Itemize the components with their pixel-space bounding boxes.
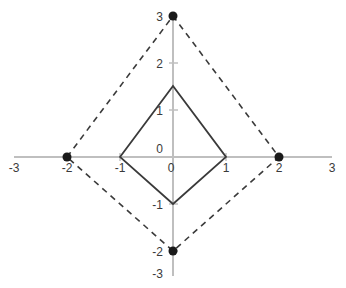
x-axis-tick-labels: -3 -2 -1 0 1 2 3 (9, 161, 336, 175)
x-label-neg1: -1 (115, 161, 126, 175)
plot-canvas: -3 -2 -1 0 1 2 3 3 2 1 0 -1 -2 -3 (0, 0, 346, 288)
y-label-neg2: -2 (152, 245, 163, 259)
x-label-pos2: 2 (276, 161, 283, 175)
x-label-pos1: 1 (223, 161, 230, 175)
y-label-pos1: 1 (156, 104, 163, 118)
y-label-neg1: -1 (152, 198, 163, 212)
y-label-pos3: 3 (156, 10, 163, 24)
coordinate-plane-figure: -3 -2 -1 0 1 2 3 3 2 1 0 -1 -2 -3 (0, 0, 346, 288)
x-label-neg3: -3 (9, 161, 20, 175)
vertex-dot-top (169, 12, 178, 21)
x-label-neg2: -2 (62, 161, 73, 175)
y-label-zero: 0 (156, 142, 163, 156)
y-label-pos2: 2 (156, 57, 163, 71)
x-label-zero: 0 (168, 161, 175, 175)
x-label-pos3: 3 (329, 161, 336, 175)
y-label-neg3: -3 (152, 267, 163, 281)
vertex-dot-bottom (169, 247, 178, 256)
axes-group (14, 12, 332, 276)
